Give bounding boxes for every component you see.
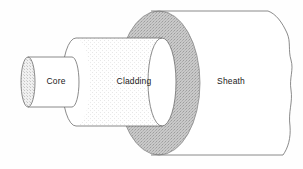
label-cladding: Cladding <box>117 76 152 86</box>
label-sheath: Sheath <box>217 76 245 86</box>
cable-diagram-canvas: Core Cladding Sheath <box>0 0 303 169</box>
cladding-right-end-cap <box>148 38 176 126</box>
cable-cutaway-diagram: Core Cladding Sheath <box>0 0 303 169</box>
label-core: Core <box>46 76 65 86</box>
core-left-end-cap <box>21 57 35 107</box>
